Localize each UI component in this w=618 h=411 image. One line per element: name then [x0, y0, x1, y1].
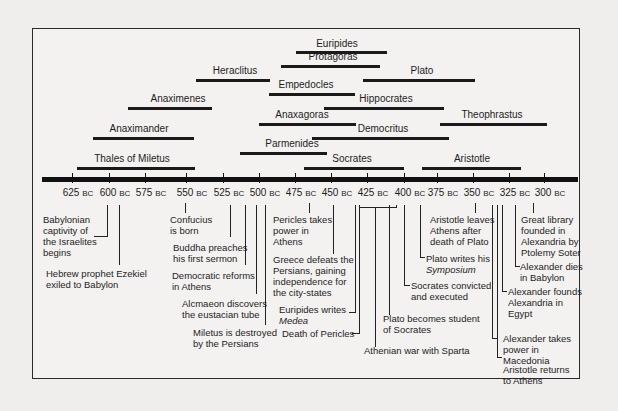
lifespan-bar — [259, 123, 356, 126]
axis-tick — [109, 173, 110, 183]
event-alcmaeon: Alcmaeon discoversthe eustacian tube — [182, 298, 267, 320]
event-miletus-destroyed: Miletus is destroyedby the Persians — [193, 327, 277, 349]
axis-tick-label: 300 BC — [535, 187, 566, 198]
lifespan-label: Theophrastus — [461, 109, 522, 120]
event-plato-symposium: Plato writes his Symposium — [426, 253, 490, 275]
axis-tick — [404, 173, 405, 183]
lifespan-bar — [93, 137, 194, 140]
event-pericles-power: Pericles takespower inAthens — [273, 214, 332, 247]
event-confucius-born: Confuciusis born — [170, 214, 212, 236]
axis-tick-label: 600 BC — [100, 187, 131, 198]
axis-tick — [509, 173, 510, 183]
event-democratic-reforms: Democratic reformsin Athens — [172, 270, 255, 292]
event-athenian-war-sparta: Athenian war with Sparta — [364, 345, 470, 356]
axis-tick — [367, 173, 368, 183]
lifespan-label: Aristotle — [454, 153, 490, 164]
event-alexander-founds-alexandria: Alexander foundsAlexandria inEgypt — [508, 286, 582, 319]
axis-tick-label: 575 BC — [136, 187, 167, 198]
lifespan-label: Hippocrates — [359, 93, 412, 104]
event-alexander-dies: Alexander diesin Babylon — [520, 261, 583, 283]
axis-tick-label: 625 BC — [63, 187, 94, 198]
axis-tick — [473, 173, 474, 183]
lifespan-label: Socrates — [332, 153, 371, 164]
lifespan-bar — [196, 79, 270, 82]
axis-tick — [72, 173, 73, 183]
event-ezekiel-exiled: Hebrew prophet Ezekielexiled to Babylon — [46, 268, 147, 290]
axis-tick-label: 350 BC — [464, 187, 495, 198]
lifespan-bar — [128, 107, 212, 110]
axis-tick — [295, 173, 296, 183]
axis-tick-label: 325 BC — [500, 187, 531, 198]
axis-tick-label: 450 BC — [322, 187, 353, 198]
lifespan-label: Parmenides — [265, 138, 318, 149]
axis-tick-label: 525 BC — [214, 187, 245, 198]
event-buddha-sermon: Buddha preacheshis first sermon — [173, 242, 247, 264]
event-greece-defeats-persians: Greece defeats thePersians, gainingindep… — [273, 254, 354, 298]
event-alexander-takes-power: Alexander takespower inMacedonia — [503, 333, 571, 366]
lifespan-label: Plato — [411, 65, 434, 76]
event-great-library: Great libraryfounded inAlexandria byPtol… — [521, 214, 581, 258]
event-socrates-executed: Socrates convictedand executed — [411, 280, 491, 302]
axis-tick-label: 475 BC — [286, 187, 317, 198]
lifespan-bar — [240, 152, 327, 155]
event-aristotle-returns: Aristotle returnsto Athens — [503, 364, 570, 386]
lifespan-label: Anaximenes — [150, 93, 205, 104]
axis-tick-label: 400 BC — [395, 187, 426, 198]
lifespan-label: Thales of Miletus — [94, 153, 170, 164]
event-babylonian-captivity: Babyloniancaptivity ofthe Israelitesbegi… — [43, 214, 97, 258]
lifespan-label: Protagoras — [309, 51, 358, 62]
lifespan-bar — [440, 123, 547, 126]
axis-tick-label: 550 BC — [177, 187, 208, 198]
lifespan-bar — [304, 167, 404, 170]
event-plato-student: Plato becomes studentof Socrates — [383, 313, 480, 335]
axis-tick — [259, 173, 260, 183]
axis-tick-label: 375 BC — [428, 187, 459, 198]
lifespan-label: Euripides — [316, 38, 358, 49]
lifespan-label: Empedocles — [278, 79, 333, 90]
lifespan-label: Anaximander — [110, 123, 169, 134]
axis-tick — [223, 173, 224, 183]
lifespan-bar — [312, 137, 449, 140]
lifespan-bar — [422, 167, 521, 170]
lifespan-bar — [269, 93, 355, 96]
event-death-of-pericles: Death of Pericles — [282, 328, 354, 339]
axis-tick-label: 500 BC — [250, 187, 281, 198]
axis-tick — [544, 173, 545, 183]
medea-title: Medea — [279, 315, 308, 326]
lifespan-label: Democritus — [358, 123, 409, 134]
event-euripides-medea: Euripides writes Medea — [279, 304, 346, 326]
axis-tick-label: 425 BC — [358, 187, 389, 198]
lifespan-label: Heraclitus — [213, 65, 257, 76]
event-aristotle-leaves: Aristotle leavesAthens afterdeath of Pla… — [430, 214, 494, 247]
lifespan-bar — [77, 167, 195, 170]
lifespan-bar — [281, 65, 380, 68]
axis-tick — [331, 173, 332, 183]
lifespan-bar — [363, 79, 475, 82]
lifespan-bar — [324, 107, 444, 110]
axis-tick — [186, 173, 187, 183]
timeline-axis — [42, 177, 578, 182]
lifespan-label: Anaxagoras — [275, 109, 328, 120]
axis-tick — [145, 173, 146, 183]
axis-tick — [437, 173, 438, 183]
symposium-title: Symposium — [426, 264, 476, 275]
